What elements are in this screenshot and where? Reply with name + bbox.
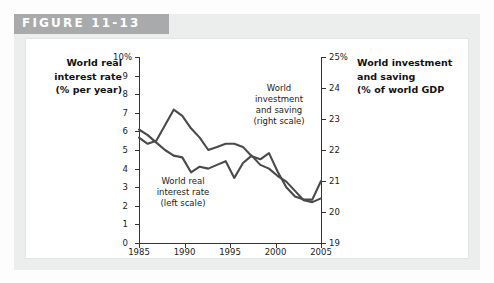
left-axis-tick xyxy=(135,76,139,77)
figure-title: FIGURE 11-13 xyxy=(22,16,141,30)
x-axis-tick-label: 2005 xyxy=(301,247,341,257)
right-axis-tick xyxy=(322,181,326,182)
left-axis-tick xyxy=(135,113,139,114)
right-axis-tick xyxy=(322,57,326,58)
left-axis-line xyxy=(139,57,140,244)
annotation-investment-line1: World xyxy=(243,83,315,94)
left-axis-tick xyxy=(135,224,139,225)
left-axis-tick xyxy=(135,150,139,151)
annotation-investment-line4: (right scale) xyxy=(243,116,315,127)
right-axis-tick xyxy=(322,119,326,120)
right-axis-tick xyxy=(322,243,326,244)
annotation-interest: World real interest rate (left scale) xyxy=(143,176,223,209)
annotation-investment: World investment and saving (right scale… xyxy=(243,83,315,127)
x-axis-tick-label: 2000 xyxy=(256,247,296,257)
annotation-interest-line3: (left scale) xyxy=(143,198,223,209)
right-axis-tick xyxy=(322,212,326,213)
right-axis-title-line3: (% of world GDP xyxy=(357,83,493,97)
annotation-investment-line2: investment xyxy=(243,94,315,105)
left-axis-tick-label: 10% xyxy=(98,53,132,62)
right-axis-tick-label: 23 xyxy=(329,115,359,124)
left-axis-tick-label: 2 xyxy=(98,202,128,211)
left-axis-tick-label: 7 xyxy=(98,109,128,118)
left-axis-tick xyxy=(135,131,139,132)
left-axis-tick-label: 5 xyxy=(98,146,128,155)
left-axis-tick-label: 1 xyxy=(98,220,128,229)
left-axis-tick-label: 9 xyxy=(98,72,128,81)
x-axis-tick-label: 1985 xyxy=(119,247,159,257)
right-axis-tick-label: 22 xyxy=(329,146,359,155)
left-axis-tick-label: 8 xyxy=(98,90,128,99)
right-axis-tick xyxy=(322,150,326,151)
x-axis-tick-label: 1990 xyxy=(165,247,205,257)
left-axis-tick xyxy=(135,187,139,188)
left-axis-tick xyxy=(135,94,139,95)
right-axis-tick xyxy=(322,88,326,89)
left-axis-tick xyxy=(135,206,139,207)
right-axis-tick-label: 20 xyxy=(329,208,359,217)
right-axis-title-line2: and saving xyxy=(357,70,493,84)
left-axis-tick-label: 3 xyxy=(98,183,128,192)
annotation-interest-line2: interest rate xyxy=(143,187,223,198)
left-axis-tick xyxy=(135,169,139,170)
annotation-investment-line3: and saving xyxy=(243,105,315,116)
right-axis-tick-label: 25% xyxy=(329,53,359,62)
x-axis-tick-label: 1995 xyxy=(210,247,250,257)
right-axis-title: World investment and saving (% of world … xyxy=(357,56,493,97)
annotation-interest-line1: World real xyxy=(143,176,223,187)
figure-page: FIGURE 11-13 World real interest rate (%… xyxy=(0,0,494,283)
right-axis-tick-label: 21 xyxy=(329,177,359,186)
left-axis-tick-label: 6 xyxy=(98,127,128,136)
left-axis-tick-label: 4 xyxy=(98,165,128,174)
right-axis-tick-label: 24 xyxy=(329,84,359,93)
left-axis-tick xyxy=(135,57,139,58)
right-axis-title-line1: World investment xyxy=(357,56,493,70)
